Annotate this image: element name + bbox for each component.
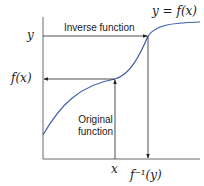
x-tick-label: x [111,162,118,176]
function-curve [43,22,200,135]
fx-tick-label: f(x) [11,71,32,85]
curve-label: y = f(x) [152,4,197,18]
y-tick-label: y [27,28,34,42]
inverse-function-label: Inverse function [64,22,135,34]
inverse-x-tick-label: f⁻¹(y) [130,168,162,182]
original-label-line1: Original [78,114,113,126]
original-function-label: Original function [78,114,113,138]
original-label-line2: function [78,126,113,138]
